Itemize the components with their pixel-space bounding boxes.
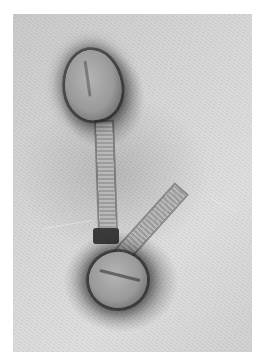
upper-phage-baseplate — [93, 228, 119, 244]
capsid-fold — [84, 61, 92, 97]
capsid-fold — [99, 269, 140, 282]
micrograph-image — [13, 14, 252, 352]
lower-phage-head — [89, 252, 147, 308]
